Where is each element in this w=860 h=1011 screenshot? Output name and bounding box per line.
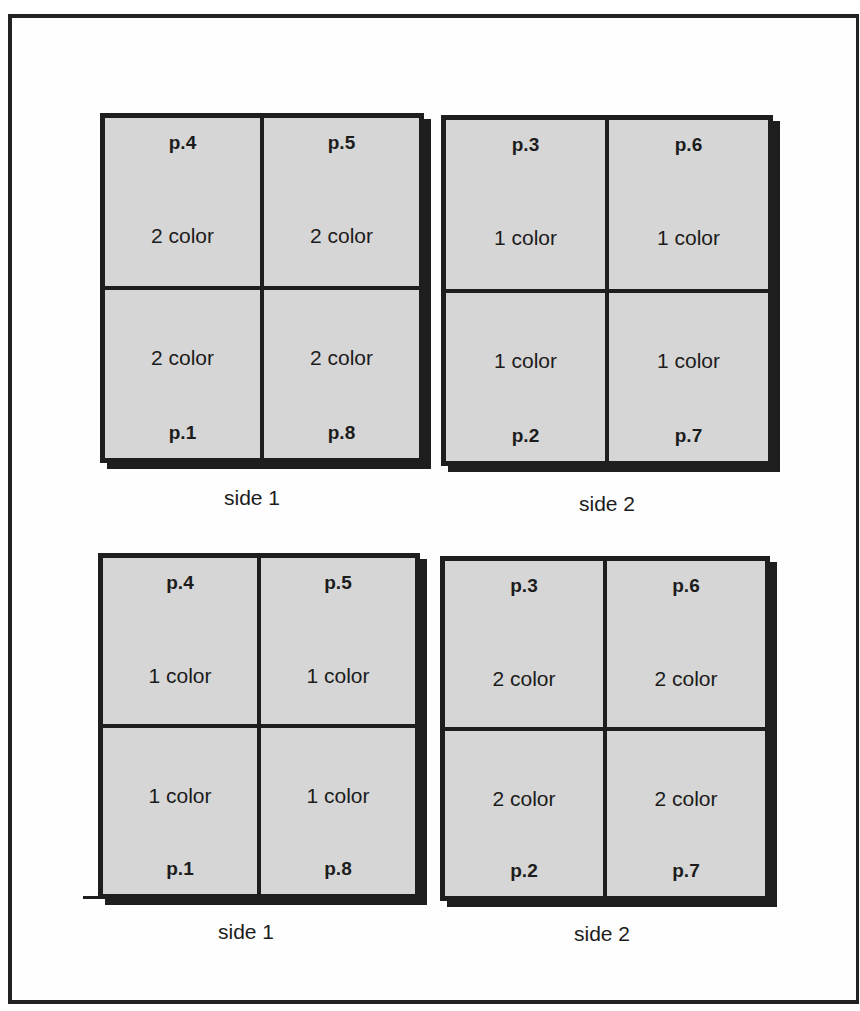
page-number: p.6 xyxy=(609,134,768,156)
color-count: 1 color xyxy=(446,226,605,250)
page-number: p.8 xyxy=(264,422,419,444)
panel-bottom-left: 2 color p.1 xyxy=(105,288,262,458)
panel-top-right: p.5 1 color xyxy=(259,558,415,726)
panel-bottom-right: 2 color p.8 xyxy=(262,288,419,458)
color-count: 2 color xyxy=(105,224,260,248)
color-count: 2 color xyxy=(445,787,603,811)
color-count: 2 color xyxy=(105,346,260,370)
page-number: p.4 xyxy=(105,132,260,154)
panel-bottom-left: 1 color p.2 xyxy=(446,291,607,462)
panel-bottom-right: 1 color p.7 xyxy=(607,291,768,462)
page-number: p.5 xyxy=(261,572,415,594)
side-label: side 2 xyxy=(502,922,702,946)
panel-top-left: p.4 2 color xyxy=(105,118,262,288)
page-number: p.3 xyxy=(445,575,603,597)
panel-top-left: p.3 2 color xyxy=(445,561,605,729)
page-number: p.4 xyxy=(103,572,257,594)
color-count: 1 color xyxy=(609,226,768,250)
sheet-layout1-side2: p.3 1 color p.6 1 color 1 color p.2 1 co… xyxy=(441,115,773,466)
color-count: 1 color xyxy=(261,784,415,808)
page-number: p.7 xyxy=(609,425,768,447)
color-count: 1 color xyxy=(446,349,605,373)
page-number: p.5 xyxy=(264,132,419,154)
color-count: 2 color xyxy=(445,667,603,691)
page-number: p.6 xyxy=(607,575,765,597)
panel-bottom-left: 1 color p.1 xyxy=(103,726,259,894)
page-number: p.1 xyxy=(105,422,260,444)
panel-top-right: p.6 1 color xyxy=(607,120,768,291)
color-count: 1 color xyxy=(103,784,257,808)
page-number: p.2 xyxy=(445,860,603,882)
color-count: 1 color xyxy=(103,664,257,688)
page-number: p.8 xyxy=(261,858,415,880)
color-count: 2 color xyxy=(264,346,419,370)
panel-bottom-left: 2 color p.2 xyxy=(445,729,605,897)
color-count: 1 color xyxy=(261,664,415,688)
page-number: p.3 xyxy=(446,134,605,156)
color-count: 2 color xyxy=(264,224,419,248)
panel-top-left: p.4 1 color xyxy=(103,558,259,726)
page-number: p.1 xyxy=(103,858,257,880)
color-count: 2 color xyxy=(607,667,765,691)
panel-top-right: p.5 2 color xyxy=(262,118,419,288)
sheet-layout2-side2: p.3 2 color p.6 2 color 2 color p.2 2 co… xyxy=(440,556,770,901)
sheet-layout1-side1: p.4 2 color p.5 2 color 2 color p.1 2 co… xyxy=(100,113,424,463)
panel-top-left: p.3 1 color xyxy=(446,120,607,291)
color-count: 2 color xyxy=(607,787,765,811)
panel-bottom-right: 2 color p.7 xyxy=(605,729,765,897)
side-label: side 2 xyxy=(507,492,707,516)
side-label: side 1 xyxy=(152,486,352,510)
page-number: p.2 xyxy=(446,425,605,447)
color-count: 1 color xyxy=(609,349,768,373)
panel-bottom-right: 1 color p.8 xyxy=(259,726,415,894)
page-number: p.7 xyxy=(607,860,765,882)
side-label: side 1 xyxy=(146,920,346,944)
sheet-layout2-side1: p.4 1 color p.5 1 color 1 color p.1 1 co… xyxy=(98,553,420,899)
panel-top-right: p.6 2 color xyxy=(605,561,765,729)
